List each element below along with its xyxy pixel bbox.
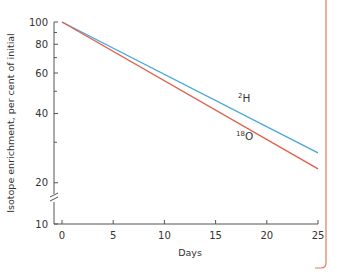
x-axis-label: Days: [178, 247, 202, 258]
series-label-2h: 2H: [238, 92, 250, 104]
y-tick-label: 40: [35, 108, 48, 119]
x-tick-label: 25: [312, 230, 325, 241]
y-tick-label: 80: [35, 39, 48, 50]
x-tick-label: 15: [209, 230, 222, 241]
series-line-18o: [62, 22, 318, 169]
x-tick-label: 10: [158, 230, 171, 241]
axis-break-icon: [50, 193, 58, 201]
series-label-18o: 18O: [236, 130, 253, 142]
y-tick-label: 10: [35, 219, 48, 230]
y-axis: 1020406080100: [29, 17, 58, 230]
x-tick-label: 0: [59, 230, 65, 241]
x-tick-label: 5: [110, 230, 116, 241]
x-tick-label: 20: [260, 230, 273, 241]
y-axis-label: Isotope enrichment, per cent of initial: [5, 33, 16, 212]
series-line-2h: [62, 22, 318, 153]
isotope-chart: 1020406080100 0510152025 Isotope enrichm…: [0, 0, 339, 272]
y-tick-label: 60: [35, 68, 48, 79]
y-tick-label: 20: [35, 177, 48, 188]
frame-border: [315, 0, 326, 268]
x-axis: 0510152025: [54, 220, 324, 241]
y-tick-label: 100: [29, 17, 48, 28]
